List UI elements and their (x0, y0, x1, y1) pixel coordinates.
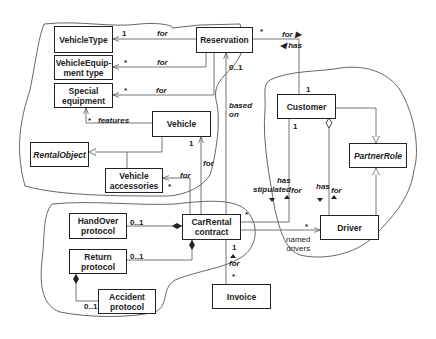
label-vt-for: for (157, 29, 168, 38)
label-res-has: ◀ has (280, 41, 302, 50)
label-invoice-one: 1 (232, 243, 236, 252)
label-res-mult: * (260, 27, 263, 36)
class-handover-protocol: HandOver protocol (69, 213, 127, 239)
label-se-mult: * (124, 86, 127, 95)
label-has-stipulated: has stipulated (253, 176, 291, 194)
label-res-for: for ▶ (282, 30, 301, 39)
label-features: features (98, 116, 129, 125)
label-se-for: for (156, 86, 167, 95)
label-handover-mult: 0..1 (130, 218, 143, 227)
label-accident-mult: 0..1 (84, 302, 97, 311)
class-carrental-contract: CarRental contract (182, 214, 241, 240)
label-vet-for: for (157, 58, 168, 67)
class-vehicleequipment-type: VehicleEquip- ment type (54, 55, 113, 80)
label-driver-star: * (305, 222, 308, 231)
label-invoice-for: for (229, 259, 240, 268)
class-partnerrole: PartnerRole (349, 143, 407, 168)
label-has2: has (316, 182, 330, 191)
label-named-drivers: named drivers (286, 235, 310, 253)
label-acc-mult: * (168, 182, 171, 191)
class-accident-protocol: Accident protocol (98, 289, 156, 314)
label-vehicle-mult: 1 (189, 139, 193, 148)
label-stip-for: for (291, 186, 302, 195)
class-customer: Customer (277, 94, 336, 119)
label-cust-mult2: 1 (293, 122, 297, 131)
label-vt-mult: 1 (122, 29, 126, 38)
class-rentalobject: RentalObject (30, 142, 89, 167)
label-contract-star: * (245, 210, 248, 219)
label-vet-mult: * (124, 58, 127, 67)
class-vehicle-accessories: Vehicle accessories (105, 168, 163, 193)
class-invoice: Invoice (212, 284, 271, 309)
class-vehicletype: VehicleType (54, 26, 113, 53)
label-based-on: based on (229, 101, 252, 119)
class-reservation: Reservation (196, 27, 253, 53)
label-cust-mult: 1 (306, 85, 310, 94)
class-driver: Driver (320, 215, 379, 240)
label-invoice-star: * (232, 272, 235, 281)
class-special-equipment: Special equipment (54, 83, 113, 108)
class-vehicle: Vehicle (152, 111, 211, 137)
label-acc-for: for (180, 171, 191, 180)
label-res-based-mult: 0..1 (229, 63, 242, 72)
label-vehicle-for: for (203, 159, 214, 168)
label-return-mult: 0..1 (130, 252, 143, 261)
label-for2: for (331, 186, 342, 195)
label-features-mult: * (88, 116, 91, 125)
class-return-protocol: Return protocol (69, 249, 127, 274)
